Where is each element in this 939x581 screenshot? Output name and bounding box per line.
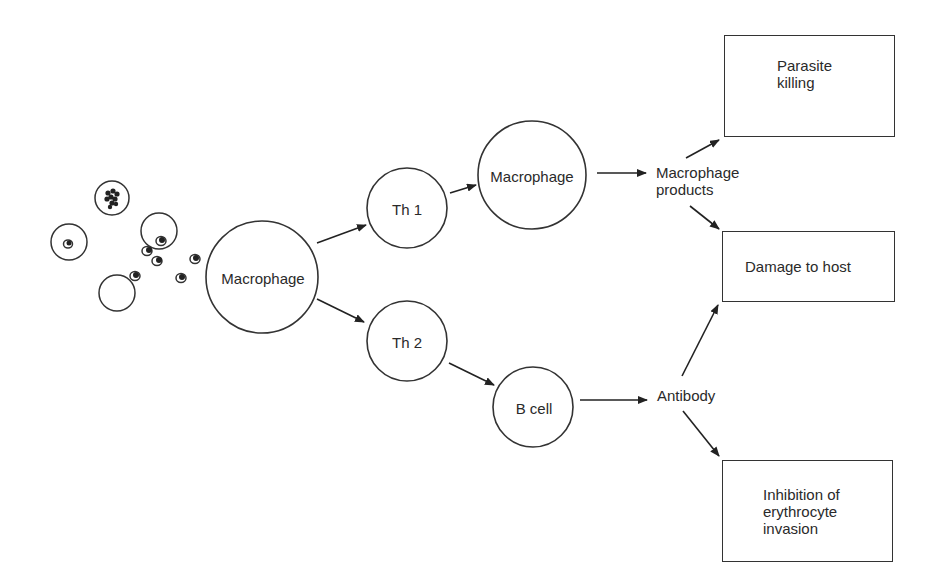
b-cell-label: B cell — [516, 400, 553, 417]
damage-to-host-box: Damage to host — [722, 231, 895, 302]
antibody-label: Antibody — [657, 387, 715, 404]
damage-to-host-label: Damage to host — [745, 258, 851, 275]
arrow-macrophage1-to-th2 — [317, 299, 364, 322]
th1-label: Th 1 — [392, 201, 422, 218]
arrow-products-to-parasite-killing — [686, 140, 719, 158]
arrow-products-to-damage — [690, 206, 719, 229]
arrow-macrophage1-to-th1 — [317, 225, 366, 243]
parasite-killing-label: Parasite killing — [777, 57, 832, 91]
parasites-icon — [51, 181, 200, 311]
arrow-th1-to-macrophage2 — [450, 185, 476, 193]
parasite-killing-box: Parasite killing — [724, 35, 895, 137]
th2-label: Th 2 — [392, 334, 422, 351]
arrow-th2-to-bcell — [449, 363, 494, 385]
macrophage-products-label: Macrophage products — [656, 164, 739, 198]
macrophage-2-label: Macrophage — [490, 168, 573, 185]
inhibition-box: Inhibition of erythrocyte invasion — [722, 460, 893, 562]
macrophage-1-label: Macrophage — [221, 270, 304, 287]
arrow-antibody-to-inhibition — [683, 411, 719, 456]
inhibition-label: Inhibition of erythrocyte invasion — [763, 486, 840, 537]
arrow-antibody-to-damage — [682, 305, 718, 376]
